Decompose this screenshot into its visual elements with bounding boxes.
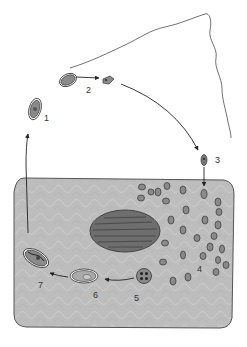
- arrow-cyst-to-sporozoite: [76, 77, 99, 78]
- young-cyst-stage-6: [70, 269, 98, 283]
- stage-label-6: 6: [93, 291, 98, 300]
- life-cycle-diagram: 1 2 3 4 5 6 7: [0, 0, 247, 347]
- stage-label-3: 3: [215, 156, 220, 165]
- sporont-stage-5: [137, 269, 152, 284]
- stage-label-5: 5: [134, 294, 139, 303]
- organism-stage-3: [201, 155, 207, 166]
- arrow-2-to-3: [121, 84, 198, 150]
- cyst-stage-1: [26, 97, 43, 121]
- stage-label-4: 4: [197, 265, 202, 274]
- stage-label-1: 1: [44, 114, 49, 123]
- stage-label-7: 7: [38, 281, 43, 290]
- host-surface-line: [70, 14, 231, 138]
- stage-label-2: 2: [86, 86, 91, 95]
- host-nucleus: [90, 210, 160, 252]
